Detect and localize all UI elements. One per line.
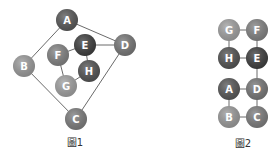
node-label: B bbox=[225, 112, 233, 123]
node-D: D bbox=[246, 78, 268, 100]
node-F: F bbox=[47, 44, 69, 66]
node-label: B bbox=[20, 61, 28, 72]
figure-caption: 圖1 bbox=[67, 137, 83, 148]
node-label: D bbox=[253, 84, 261, 95]
node-A: A bbox=[218, 78, 240, 100]
node-E: E bbox=[246, 47, 268, 69]
node-H: H bbox=[218, 47, 240, 69]
node-G: G bbox=[55, 75, 77, 97]
node-label: G bbox=[62, 81, 70, 92]
node-H: H bbox=[78, 60, 100, 82]
node-label: C bbox=[253, 112, 260, 123]
node-G: G bbox=[218, 19, 240, 41]
node-C: C bbox=[65, 108, 87, 130]
node-C: C bbox=[246, 106, 268, 128]
node-label: H bbox=[225, 53, 233, 64]
graph-diagram: ABCDEFGH圖1 GFHEADBC圖2 bbox=[0, 0, 280, 160]
node-label: C bbox=[72, 114, 79, 125]
node-F: F bbox=[246, 19, 268, 41]
figure-2: GFHEADBC圖2 bbox=[218, 19, 268, 149]
figure-caption: 圖2 bbox=[235, 138, 251, 149]
node-label: F bbox=[55, 50, 62, 61]
node-label: D bbox=[121, 40, 129, 51]
node-label: H bbox=[85, 66, 93, 77]
node-E: E bbox=[74, 34, 96, 56]
figure-1: ABCDEFGH圖1 bbox=[13, 9, 136, 148]
node-B: B bbox=[218, 106, 240, 128]
node-label: A bbox=[63, 15, 71, 26]
node-label: E bbox=[254, 53, 261, 64]
node-label: G bbox=[225, 25, 233, 36]
node-A: A bbox=[56, 9, 78, 31]
node-label: A bbox=[225, 84, 233, 95]
node-label: E bbox=[82, 40, 89, 51]
node-label: F bbox=[254, 25, 261, 36]
node-B: B bbox=[13, 55, 35, 77]
edge-C-D bbox=[76, 45, 125, 119]
node-D: D bbox=[114, 34, 136, 56]
